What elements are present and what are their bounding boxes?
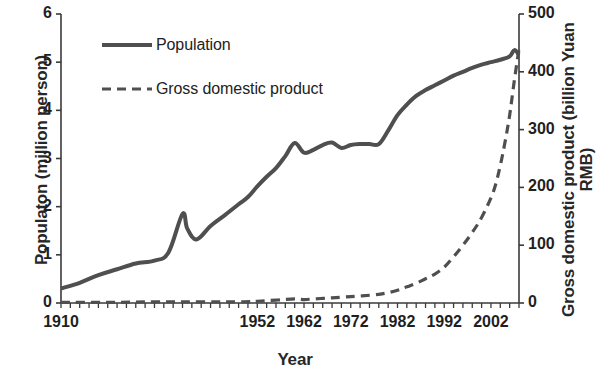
chart-figure: Populaton (million person) Gross domesti… <box>0 0 613 376</box>
legend-dashed-line-icon <box>101 83 153 95</box>
legend-solid-line-icon <box>101 39 153 51</box>
chart-legend: Population Gross domestic product <box>101 30 361 104</box>
legend-item-gdp: Gross domestic product <box>101 74 361 104</box>
legend-label-population: Population <box>156 36 231 54</box>
legend-label-gdp: Gross domestic product <box>156 80 323 98</box>
legend-item-population: Population <box>101 30 361 60</box>
